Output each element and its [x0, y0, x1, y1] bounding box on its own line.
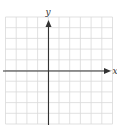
y-axis-arrow-icon	[46, 20, 52, 27]
y-axis	[46, 20, 52, 125]
x-axis-label: x	[113, 66, 118, 76]
x-axis-arrow-icon	[104, 68, 111, 74]
y-axis-label: y	[45, 7, 52, 17]
coordinate-plane: y x	[0, 0, 117, 127]
x-axis	[3, 68, 111, 74]
